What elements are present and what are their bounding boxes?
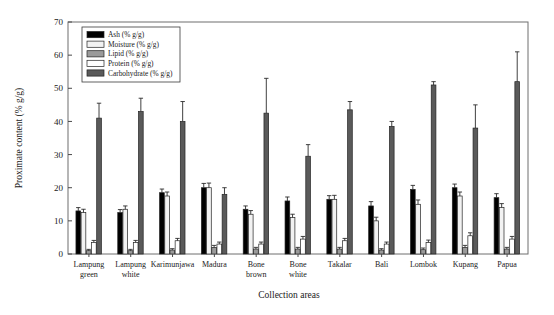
bar bbox=[510, 239, 515, 254]
bar bbox=[212, 247, 217, 254]
x-category-label: Takalar bbox=[328, 260, 352, 269]
x-category-label: Karimunjawa bbox=[151, 260, 195, 269]
y-tick-label: 20 bbox=[54, 183, 64, 193]
bar bbox=[426, 242, 431, 254]
legend-entry-label: Carbohydrate (% g/g) bbox=[108, 69, 173, 78]
proximate-content-bar-chart: 010203040506070 LampunggreenLampungwhite… bbox=[0, 0, 554, 315]
legend-swatch bbox=[87, 41, 104, 47]
bar bbox=[421, 250, 426, 254]
bar bbox=[81, 213, 86, 254]
bar bbox=[457, 196, 462, 254]
legend-entry-label: Ash (% g/g) bbox=[108, 30, 145, 39]
figure-container: 010203040506070 LampunggreenLampungwhite… bbox=[0, 0, 554, 315]
bar bbox=[264, 113, 269, 254]
bar bbox=[337, 249, 342, 254]
bar bbox=[139, 111, 144, 254]
bar bbox=[431, 85, 436, 254]
bar bbox=[248, 214, 253, 254]
y-tick-label: 50 bbox=[54, 83, 64, 93]
bar bbox=[499, 208, 504, 254]
x-category-label: Kupang bbox=[453, 260, 478, 269]
bar bbox=[416, 204, 421, 254]
legend-swatch bbox=[87, 60, 104, 66]
bar bbox=[374, 221, 379, 254]
x-category-label: Papua bbox=[497, 260, 517, 269]
bar bbox=[217, 244, 222, 254]
bar bbox=[332, 199, 337, 254]
legend-entry-label: Lipid (% g/g) bbox=[108, 49, 149, 58]
legend-swatch bbox=[87, 32, 104, 38]
bar bbox=[369, 206, 374, 254]
y-tick-label: 0 bbox=[59, 249, 64, 259]
y-tick-label: 40 bbox=[54, 117, 64, 127]
bar bbox=[254, 249, 259, 254]
bar bbox=[452, 188, 457, 254]
bar bbox=[207, 188, 212, 254]
y-axis-title: Proximate content (% g/g) bbox=[14, 88, 25, 189]
bar bbox=[473, 128, 478, 254]
x-axis-title: Collection areas bbox=[258, 290, 320, 300]
bar bbox=[505, 249, 510, 254]
bar bbox=[92, 242, 97, 254]
bar bbox=[301, 239, 306, 254]
bar bbox=[494, 198, 499, 254]
x-category-label: Madura bbox=[202, 260, 227, 269]
bar bbox=[170, 250, 175, 254]
bar bbox=[222, 194, 227, 254]
legend-entry-label: Moisture (% g/g) bbox=[108, 40, 159, 49]
bar bbox=[306, 156, 311, 254]
legend-entry-label: Protein (% g/g) bbox=[108, 59, 154, 68]
bar bbox=[295, 249, 300, 254]
x-category-label-line2: white bbox=[289, 270, 307, 279]
x-category-label: Bone bbox=[248, 260, 265, 269]
bar bbox=[259, 244, 264, 254]
bar bbox=[180, 121, 185, 254]
y-tick-label: 60 bbox=[54, 50, 64, 60]
x-category-label-line2: green bbox=[80, 270, 98, 279]
bar bbox=[160, 193, 165, 254]
bar bbox=[389, 126, 394, 254]
bar bbox=[290, 218, 295, 254]
bar bbox=[410, 189, 415, 254]
bar bbox=[243, 209, 248, 254]
bar bbox=[463, 247, 468, 254]
x-category-label: Lampung bbox=[115, 260, 146, 269]
x-category-label-line2: brown bbox=[246, 270, 266, 279]
bar bbox=[285, 201, 290, 254]
x-category-label: Lampung bbox=[74, 260, 105, 269]
bar bbox=[123, 209, 128, 254]
x-category-label: Bali bbox=[375, 260, 389, 269]
bar bbox=[515, 82, 520, 254]
bar bbox=[379, 250, 384, 254]
bar bbox=[175, 241, 180, 254]
legend-swatch bbox=[87, 70, 104, 76]
legend-swatch bbox=[87, 51, 104, 57]
bar bbox=[384, 244, 389, 254]
bar bbox=[327, 199, 332, 254]
bar bbox=[342, 241, 347, 254]
bar bbox=[118, 213, 123, 254]
y-tick-label: 10 bbox=[54, 216, 64, 226]
y-tick-label: 70 bbox=[54, 17, 64, 27]
bar bbox=[165, 196, 170, 254]
bar bbox=[86, 251, 91, 254]
x-category-label-line2: white bbox=[122, 270, 140, 279]
chart-legend: Ash (% g/g)Moisture (% g/g)Lipid (% g/g)… bbox=[82, 27, 180, 82]
bar bbox=[348, 110, 353, 254]
bar bbox=[201, 188, 206, 254]
bar bbox=[97, 118, 102, 254]
bar bbox=[133, 242, 138, 254]
y-tick-label: 30 bbox=[54, 150, 64, 160]
bar bbox=[468, 236, 473, 254]
x-category-label: Bone bbox=[290, 260, 307, 269]
bar bbox=[128, 251, 133, 254]
x-category-label: Lombok bbox=[410, 260, 437, 269]
bar bbox=[76, 211, 81, 254]
